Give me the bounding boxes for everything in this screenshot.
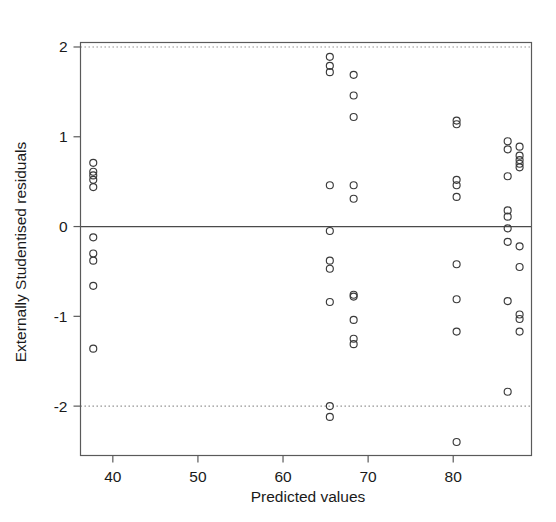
x-tick-label: 70 — [359, 468, 377, 485]
data-point — [350, 182, 357, 189]
y-axis-title: Externally Studentised residuals — [12, 141, 29, 362]
data-point — [516, 316, 523, 323]
data-point — [326, 53, 333, 60]
data-point — [90, 176, 97, 183]
data-point — [453, 439, 460, 446]
x-tick-label: 80 — [445, 468, 463, 485]
y-axis-ticks: -2-1012 — [54, 38, 81, 414]
x-axis-title: Predicted values — [251, 488, 366, 505]
data-point — [90, 345, 97, 352]
x-tick-label: 60 — [274, 468, 292, 485]
data-point — [504, 173, 511, 180]
data-point — [326, 413, 333, 420]
x-tick-label: 50 — [189, 468, 207, 485]
y-tick-label: 1 — [59, 128, 68, 145]
data-point — [90, 282, 97, 289]
data-point — [350, 92, 357, 99]
data-point — [504, 138, 511, 145]
data-point — [516, 143, 523, 150]
data-point — [453, 193, 460, 200]
x-axis-ticks: 4050607080 — [104, 456, 462, 485]
data-point — [453, 261, 460, 268]
data-point — [90, 250, 97, 257]
data-point — [326, 298, 333, 305]
data-point — [453, 296, 460, 303]
data-point — [90, 234, 97, 241]
y-tick-label: -2 — [54, 398, 68, 415]
data-point — [516, 263, 523, 270]
data-point — [90, 159, 97, 166]
data-point — [90, 184, 97, 191]
data-point — [516, 243, 523, 250]
data-point — [504, 238, 511, 245]
plot-frame — [81, 43, 532, 456]
data-point — [350, 316, 357, 323]
y-tick-label: -1 — [54, 308, 68, 325]
data-point — [504, 388, 511, 395]
data-point — [516, 328, 523, 335]
data-point — [504, 146, 511, 153]
data-point — [326, 228, 333, 235]
data-point — [326, 265, 333, 272]
plot-canvas: 4050607080 -2-1012 Predicted values Exte… — [0, 0, 556, 522]
data-point — [350, 71, 357, 78]
scatter-plot-figure: 4050607080 -2-1012 Predicted values Exte… — [0, 0, 556, 522]
data-point — [504, 225, 511, 232]
y-tick-label: 0 — [59, 218, 68, 235]
data-point — [90, 257, 97, 264]
x-tick-label: 40 — [104, 468, 122, 485]
data-point — [326, 257, 333, 264]
y-tick-label: 2 — [59, 38, 68, 55]
data-point — [350, 114, 357, 121]
data-point — [453, 328, 460, 335]
data-point — [350, 195, 357, 202]
data-points-group — [90, 53, 523, 445]
data-point — [326, 182, 333, 189]
data-point — [504, 298, 511, 305]
